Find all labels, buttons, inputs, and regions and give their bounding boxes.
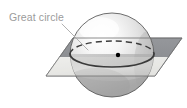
sphere-center-dot [116,53,120,57]
figure-canvas: Great circle [0,0,187,108]
great-circle-label: Great circle [9,11,64,23]
great-circle-figure: Great circle [0,0,187,108]
